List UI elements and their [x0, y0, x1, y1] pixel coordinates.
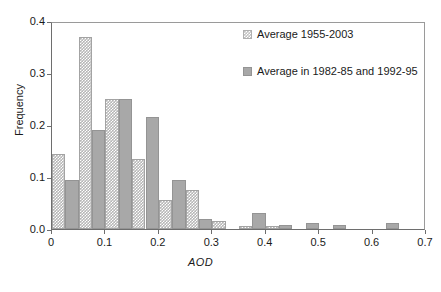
x-tick	[104, 230, 105, 234]
histogram-bar	[186, 190, 199, 229]
legend-swatch-hatched-icon	[243, 30, 252, 39]
histogram-bar	[212, 221, 225, 229]
legend-item-1: Average in 1982-85 and 1992-95	[243, 65, 418, 78]
y-tick-label: 0.0	[15, 223, 45, 235]
x-tick	[265, 230, 266, 234]
histogram-bar	[52, 154, 65, 229]
x-tick-label: 0	[31, 236, 71, 248]
legend-swatch-solid-icon	[243, 67, 252, 76]
y-tick-label: 0.4	[15, 15, 45, 27]
chart-legend: Average 1955-2003 Average in 1982-85 and…	[243, 28, 418, 102]
histogram-bar	[266, 226, 279, 229]
y-tick-label: 0.1	[15, 171, 45, 183]
x-tick	[158, 230, 159, 234]
histogram-bar	[119, 99, 132, 229]
histogram-bar	[199, 219, 212, 229]
histogram-bar	[306, 223, 319, 229]
x-tick	[318, 230, 319, 234]
x-tick	[51, 230, 52, 234]
x-tick-label: 0.1	[84, 236, 124, 248]
histogram-bar	[172, 180, 185, 229]
histogram-bar	[105, 99, 118, 229]
x-tick	[211, 230, 212, 234]
x-tick-label: 0.2	[138, 236, 178, 248]
x-tick-label: 0.6	[352, 236, 392, 248]
histogram-bar	[65, 180, 78, 229]
histogram-bar	[386, 223, 399, 229]
x-tick-label: 0.7	[405, 236, 441, 248]
y-tick-label: 0.2	[15, 119, 45, 131]
y-axis-tick-labels: 0.00.10.20.30.4	[12, 0, 45, 292]
histogram-bar	[333, 225, 346, 229]
histogram-bar	[279, 225, 292, 229]
histogram-bar	[132, 159, 145, 229]
chart-figure: Frequency 0.00.10.20.30.4 00.10.20.30.40…	[0, 0, 441, 292]
legend-label-0: Average 1955-2003	[257, 28, 353, 41]
histogram-bar	[79, 37, 92, 229]
y-tick-label: 0.3	[15, 67, 45, 79]
x-tick-label: 0.4	[245, 236, 285, 248]
x-tick-label: 0.5	[298, 236, 338, 248]
legend-item-0: Average 1955-2003	[243, 28, 418, 41]
legend-label-1: Average in 1982-85 and 1992-95	[257, 65, 418, 78]
histogram-bar	[252, 213, 265, 229]
histogram-bar	[239, 226, 252, 229]
x-axis-title-text: AOD	[188, 256, 213, 268]
x-axis-title: AOD	[0, 256, 441, 268]
histogram-bar	[159, 200, 172, 229]
x-tick	[425, 230, 426, 234]
x-tick	[372, 230, 373, 234]
x-tick-label: 0.3	[191, 236, 231, 248]
histogram-bar	[146, 117, 159, 229]
histogram-bar	[92, 130, 105, 229]
